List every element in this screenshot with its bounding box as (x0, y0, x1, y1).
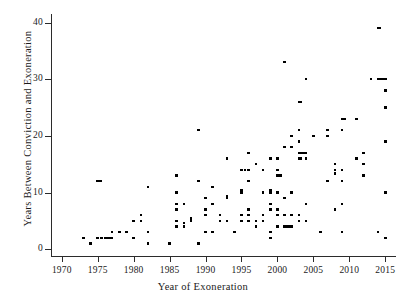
scatter-plot-figure: 010203040 197019751980198519901995200020… (0, 0, 406, 307)
data-point (175, 208, 178, 211)
data-point (298, 129, 301, 132)
data-point (384, 191, 387, 194)
data-point (190, 217, 193, 220)
x-axis-label: Year of Exoneration (0, 281, 406, 292)
data-point (262, 169, 265, 172)
data-point (276, 214, 279, 217)
data-point (334, 169, 337, 172)
data-point (305, 152, 308, 155)
data-point (283, 214, 286, 217)
data-point (298, 220, 301, 223)
data-point (240, 191, 243, 194)
y-tick-mark (45, 249, 51, 250)
y-tick-label: 20 (33, 131, 43, 141)
y-tick-label: 40 (33, 18, 43, 28)
data-point (283, 146, 286, 149)
data-point (197, 180, 200, 183)
data-point (190, 220, 193, 223)
data-point (276, 225, 279, 228)
data-point (226, 157, 229, 160)
y-tick-label: 30 (33, 74, 43, 84)
data-point (247, 220, 250, 223)
x-tick-mark (134, 257, 135, 262)
data-point (341, 180, 344, 183)
data-point (262, 220, 265, 223)
x-tick-mark (206, 257, 207, 262)
data-point (147, 231, 150, 234)
data-point (343, 118, 346, 121)
data-point (326, 129, 329, 132)
data-point (362, 163, 365, 166)
data-point (204, 197, 207, 200)
data-point (355, 157, 358, 160)
data-point (262, 191, 265, 194)
data-point (140, 220, 143, 223)
data-point (276, 157, 279, 160)
data-point (175, 225, 178, 228)
data-point (298, 140, 301, 143)
data-point (240, 214, 243, 217)
data-point (269, 189, 272, 192)
data-point (211, 186, 214, 189)
data-point (305, 78, 308, 81)
data-point (290, 135, 293, 138)
data-point (168, 242, 171, 245)
data-point (269, 191, 272, 194)
x-tick-label: 1980 (114, 265, 154, 275)
y-tick-mark (45, 193, 51, 194)
data-point (175, 191, 178, 194)
data-point (255, 220, 258, 223)
data-point (197, 129, 200, 132)
data-point (384, 78, 387, 81)
data-point (255, 225, 258, 228)
data-point (334, 163, 337, 166)
data-point (240, 189, 243, 192)
data-point (283, 197, 286, 200)
data-point (341, 169, 344, 172)
data-point (305, 157, 308, 160)
data-point (283, 61, 286, 64)
data-point (362, 174, 365, 177)
y-axis-label: Years Between Conviction and Exoneration (22, 24, 33, 234)
data-point (125, 231, 128, 234)
data-point (300, 157, 303, 160)
data-point (362, 152, 365, 155)
x-tick-label: 2015 (365, 265, 405, 275)
data-point (147, 186, 150, 189)
data-point (99, 180, 102, 183)
x-tick-label: 1975 (78, 265, 118, 275)
data-point (183, 222, 186, 225)
data-point (290, 214, 293, 217)
data-point (132, 220, 135, 223)
data-point (204, 231, 207, 234)
data-point (226, 220, 229, 223)
data-point (384, 106, 387, 109)
data-point (226, 197, 229, 200)
y-tick-label: 0 (38, 244, 43, 254)
y-axis-line (51, 14, 52, 256)
x-tick-label: 1970 (42, 265, 82, 275)
data-point (276, 208, 279, 211)
data-point (175, 220, 178, 223)
data-point (247, 152, 250, 155)
y-tick-mark (45, 23, 51, 24)
data-point (233, 231, 236, 234)
data-point (247, 208, 250, 211)
data-point (204, 214, 207, 217)
x-tick-label: 2005 (293, 265, 333, 275)
x-tick-mark (277, 257, 278, 262)
x-tick-mark (170, 257, 171, 262)
data-point (269, 157, 272, 160)
data-point (147, 242, 150, 245)
data-point (255, 163, 258, 166)
data-point (378, 27, 381, 30)
data-point (341, 231, 344, 234)
x-tick-mark (385, 257, 386, 262)
data-point (89, 242, 92, 245)
data-point (197, 242, 200, 245)
data-point (247, 169, 250, 172)
data-point (132, 237, 135, 240)
data-point (100, 237, 103, 240)
data-point (276, 191, 279, 194)
data-point (211, 231, 214, 234)
